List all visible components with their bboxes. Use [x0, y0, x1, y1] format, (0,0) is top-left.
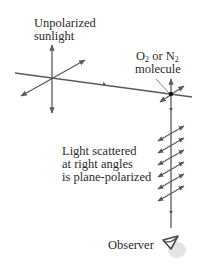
molecule-o-text: O	[136, 49, 145, 63]
sunlight-label-line2: sunlight	[34, 30, 96, 43]
scattered-beam	[169, 94, 173, 228]
molecule-label-line2: molecule	[135, 63, 181, 76]
observer-label: Observer	[108, 239, 154, 252]
molecule-leader-line	[156, 79, 169, 93]
unpolarized-vibration-arrows-icon	[21, 45, 85, 113]
scattered-label-line3: is plane-polarized	[62, 171, 151, 184]
molecule-label: O2 or N2 molecule	[134, 50, 181, 76]
scattering-diagram	[0, 0, 205, 266]
molecule-or-text: or N	[149, 49, 175, 63]
unpolarized-sunlight-label: Unpolarized sunlight	[34, 17, 96, 43]
scattered-light-label: Light scattered at right angles is plane…	[62, 145, 151, 184]
molecule-vibration-arrows-icon	[160, 79, 184, 102]
observer-eye-icon	[163, 236, 186, 258]
molecule-dot	[169, 92, 173, 96]
